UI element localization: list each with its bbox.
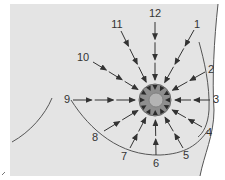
clock-label-5: 5 (183, 149, 189, 161)
clock-label-12: 12 (149, 7, 161, 19)
clock-label-8: 8 (92, 131, 98, 143)
clock-label-6: 6 (153, 157, 159, 169)
clock-label-7: 7 (121, 150, 127, 162)
clock-label-4: 4 (206, 126, 212, 138)
nipple (149, 93, 163, 107)
clock-label-2: 2 (208, 63, 214, 75)
margin-mark (2, 172, 5, 175)
clock-label-3: 3 (213, 93, 219, 105)
clock-label-11: 11 (111, 18, 122, 30)
breast-clock-diagram: 121234567891011 (0, 0, 225, 180)
clock-label-9: 9 (64, 93, 70, 105)
clock-label-1: 1 (194, 18, 200, 30)
clock-label-10: 10 (77, 51, 89, 63)
